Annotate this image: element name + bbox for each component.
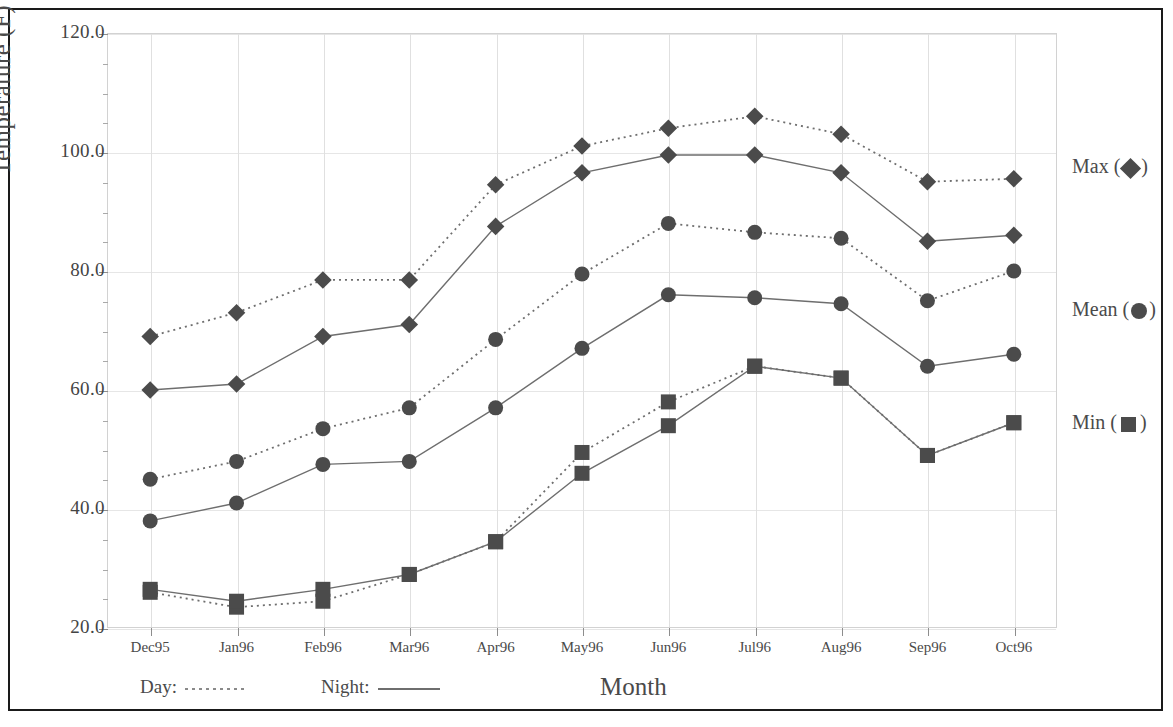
data-point-square	[229, 594, 244, 609]
data-point-circle	[661, 216, 676, 231]
data-point-circle	[661, 287, 676, 302]
data-point-diamond	[832, 125, 850, 143]
data-point-diamond	[141, 328, 159, 346]
data-point-diamond	[660, 119, 678, 137]
data-point-circle	[1006, 347, 1021, 362]
data-point-diamond	[1005, 170, 1023, 188]
data-point-circle	[747, 290, 762, 305]
data-point-circle	[920, 293, 935, 308]
legend-entry-night: Night:	[321, 676, 440, 698]
data-point-circle	[834, 231, 849, 246]
legend-label-close: )	[1149, 298, 1156, 320]
data-point-diamond	[1005, 227, 1023, 245]
data-point-diamond	[660, 146, 678, 164]
data-point-circle	[229, 496, 244, 511]
data-point-square	[661, 418, 676, 433]
data-point-square	[575, 466, 590, 481]
data-point-circle	[834, 296, 849, 311]
legend-item-min: Min ()	[1072, 411, 1147, 434]
series-line	[150, 366, 1014, 607]
diamond-marker-icon	[1120, 158, 1141, 179]
legend-item-max: Max ()	[1072, 155, 1148, 178]
line-sample-solid	[378, 688, 440, 690]
data-point-diamond	[487, 176, 505, 194]
data-point-circle	[488, 400, 503, 415]
data-point-diamond	[746, 146, 764, 164]
data-point-circle	[315, 421, 330, 436]
data-point-circle	[402, 454, 417, 469]
legend-entry-label: Night:	[321, 676, 370, 697]
data-point-square	[402, 567, 417, 582]
data-point-circle	[402, 400, 417, 415]
legend-label-close: )	[1140, 411, 1147, 433]
data-point-diamond	[746, 108, 764, 126]
series-line	[150, 295, 1014, 521]
circle-marker-icon	[1131, 303, 1147, 319]
legend-label: Mean (	[1072, 298, 1129, 320]
data-point-circle	[747, 225, 762, 240]
line-sample-dotted	[185, 685, 247, 692]
series-layer	[0, 0, 1173, 727]
data-point-square	[575, 445, 590, 460]
data-point-circle	[143, 472, 158, 487]
data-point-diamond	[314, 328, 332, 346]
legend-entry-label: Day:	[140, 676, 177, 697]
data-point-circle	[488, 332, 503, 347]
data-point-circle	[920, 359, 935, 374]
data-point-square	[143, 582, 158, 597]
data-point-square	[315, 582, 330, 597]
data-point-square	[747, 359, 762, 374]
data-point-diamond	[573, 137, 591, 155]
data-point-circle	[575, 341, 590, 356]
data-point-square	[920, 448, 935, 463]
legend-label: Max (	[1072, 155, 1120, 177]
data-point-diamond	[228, 375, 246, 393]
legend-label: Min (	[1072, 411, 1117, 433]
bottom-legend: Day:Night:	[140, 676, 514, 698]
data-point-square	[661, 394, 676, 409]
legend-item-mean: Mean ()	[1072, 298, 1156, 321]
data-point-diamond	[919, 173, 937, 191]
square-marker-icon	[1121, 417, 1136, 432]
data-point-square	[488, 534, 503, 549]
data-point-square	[834, 371, 849, 386]
data-point-circle	[143, 513, 158, 528]
data-point-circle	[229, 454, 244, 469]
chart-figure: Temperature (F) Month 120.0100.080.060.0…	[0, 0, 1173, 727]
data-point-square	[1006, 415, 1021, 430]
data-point-diamond	[314, 271, 332, 289]
legend-entry-day: Day:	[140, 676, 247, 698]
legend-label-close: )	[1141, 155, 1148, 177]
data-point-diamond	[141, 381, 159, 399]
data-point-circle	[575, 266, 590, 281]
data-point-diamond	[573, 164, 591, 182]
data-point-diamond	[919, 232, 937, 250]
data-point-circle	[315, 457, 330, 472]
data-point-diamond	[832, 164, 850, 182]
data-point-diamond	[228, 304, 246, 322]
data-point-circle	[1006, 264, 1021, 279]
